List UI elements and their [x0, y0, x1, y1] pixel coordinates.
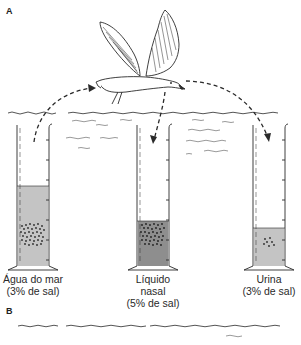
label-nasal-name-2: nasal — [108, 285, 198, 297]
label-urine-name: Urina — [224, 273, 301, 285]
water-surface — [8, 112, 278, 154]
cylinder-seawater — [8, 124, 58, 270]
label-seawater-salt: (3% de sal) — [0, 285, 78, 297]
arrow-bird-to-urine — [186, 81, 268, 138]
label-nasal-name-1: Líquido — [108, 273, 198, 285]
label-nasal: Líquido nasal (5% de sal) — [108, 273, 198, 309]
seagull-illustration — [96, 10, 185, 104]
arrow-sea-to-bird — [34, 88, 92, 142]
cylinder-nasal — [128, 124, 178, 270]
arrow-bird-to-nasal — [154, 92, 165, 140]
flow-arrows — [34, 81, 268, 142]
panel-label-a: A — [6, 6, 13, 16]
label-urine: Urina (3% de sal) — [224, 273, 301, 297]
label-seawater: Água do mar (3% de sal) — [0, 273, 78, 297]
panel-label-b: B — [6, 306, 13, 316]
panel-b-water-surface — [18, 325, 280, 337]
label-seawater-name: Água do mar — [0, 273, 78, 285]
label-nasal-salt: (5% de sal) — [108, 297, 198, 309]
cylinder-urine — [244, 124, 294, 270]
label-urine-salt: (3% de sal) — [224, 285, 301, 297]
